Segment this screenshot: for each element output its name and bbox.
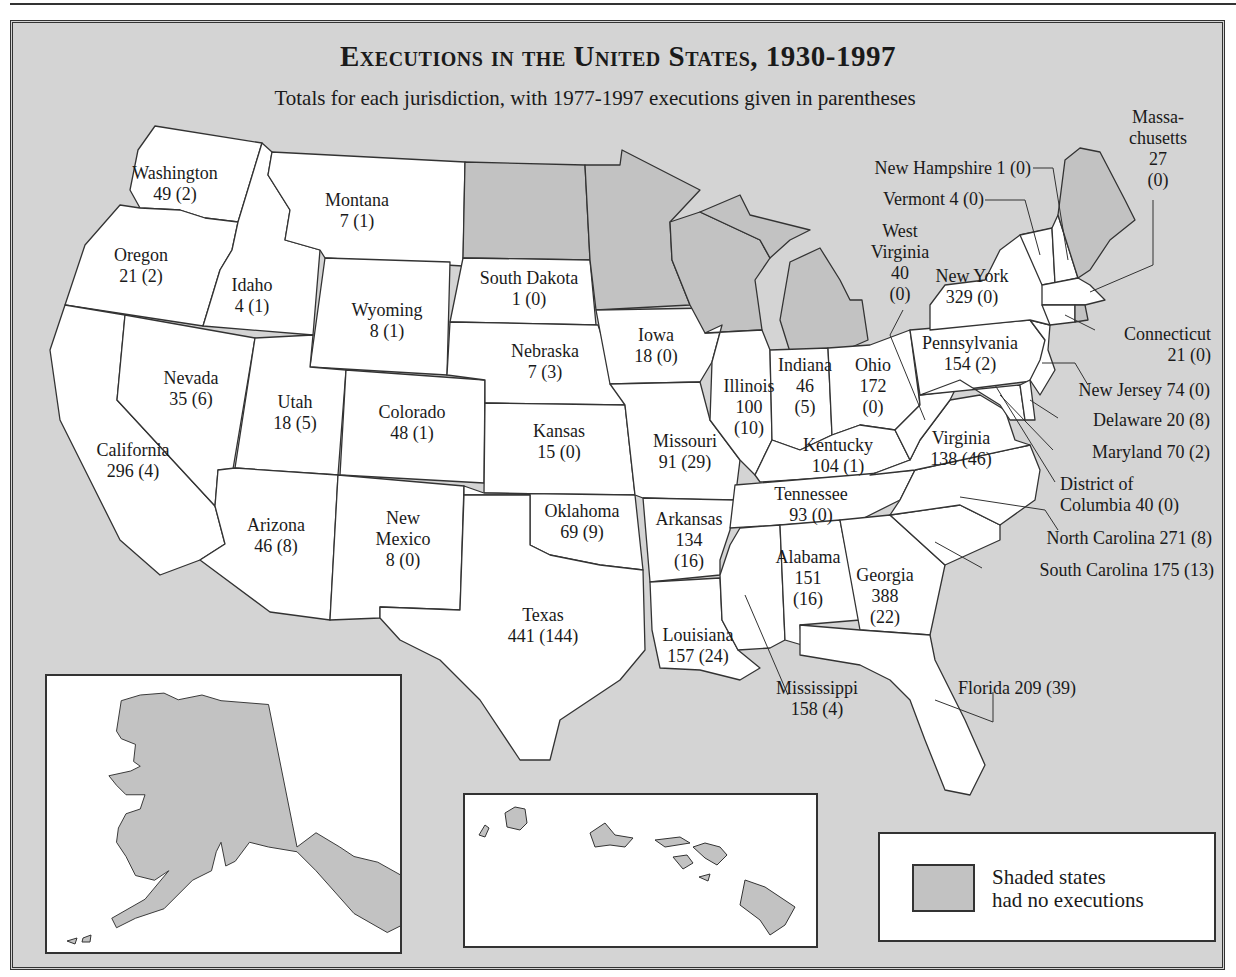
label-indiana: Indiana46(5) <box>778 355 832 418</box>
label-texas: Texas441 (144) <box>508 605 579 647</box>
label-wyoming: Wyoming8 (1) <box>352 300 423 342</box>
map-subtitle: Totals for each jurisdiction, with 1977-… <box>0 86 1190 111</box>
legend-swatch-shaded <box>912 864 975 912</box>
label-alabama: Alabama151(16) <box>776 547 841 610</box>
state-rhode-island <box>1075 305 1088 322</box>
label-kentucky: Kentucky104 (1) <box>803 435 873 477</box>
alaska-shape <box>47 676 400 952</box>
label-montana: Montana7 (1) <box>325 190 389 232</box>
label-new-hampshire: New Hampshire 1 (0) <box>875 158 1031 179</box>
label-ohio: Ohio172(0) <box>855 355 891 418</box>
label-new-mexico: NewMexico8 (0) <box>376 508 431 571</box>
label-district-of-columbia: District ofColumbia 40 (0) <box>1060 474 1179 516</box>
legend-text: Shaded states had no executions <box>992 866 1144 912</box>
label-pennsylvania: Pennsylvania154 (2) <box>922 333 1018 375</box>
label-delaware: Delaware 20 (8) <box>1093 410 1210 431</box>
label-oklahoma: Oklahoma69 (9) <box>545 501 620 543</box>
label-south-carolina: South Carolina 175 (13) <box>1040 560 1214 581</box>
label-west-virginia: WestVirginia40(0) <box>871 221 930 305</box>
label-louisiana: Louisiana157 (24) <box>663 625 734 667</box>
state-north-dakota <box>463 162 590 260</box>
label-virginia: Virginia138 (46) <box>930 428 992 470</box>
label-tennessee: Tennessee93 (0) <box>774 484 848 526</box>
hawaii-inset <box>463 793 818 948</box>
label-colorado: Colorado48 (1) <box>379 402 446 444</box>
label-nebraska: Nebraska7 (3) <box>511 341 579 383</box>
label-arkansas: Arkansas134(16) <box>656 509 723 572</box>
label-california: California296 (4) <box>97 440 170 482</box>
label-oregon: Oregon21 (2) <box>114 245 168 287</box>
label-illinois: Illinois100(10) <box>723 376 774 439</box>
label-washington: Washington49 (2) <box>132 163 218 205</box>
label-north-carolina: North Carolina 271 (8) <box>1047 528 1212 549</box>
label-south-dakota: South Dakota1 (0) <box>480 268 579 310</box>
label-new-jersey: New Jersey 74 (0) <box>1079 380 1210 401</box>
alaska-inset <box>45 674 402 954</box>
label-maryland: Maryland 70 (2) <box>1092 442 1210 463</box>
label-nevada: Nevada35 (6) <box>164 368 219 410</box>
label-massachusetts: Massa-chusetts27(0) <box>1129 107 1187 191</box>
map-title: Executions in the United States, 1930-19… <box>0 40 1236 73</box>
label-iowa: Iowa18 (0) <box>634 325 678 367</box>
label-new-york: New York329 (0) <box>935 266 1008 308</box>
legend: Shaded states had no executions <box>878 832 1216 942</box>
label-missouri: Missouri91 (29) <box>653 431 717 473</box>
label-mississippi: Mississippi158 (4) <box>776 678 858 720</box>
label-kansas: Kansas15 (0) <box>533 421 585 463</box>
label-florida: Florida 209 (39) <box>958 678 1076 699</box>
label-connecticut: Connecticut21 (0) <box>1124 324 1211 366</box>
label-vermont: Vermont 4 (0) <box>883 189 984 210</box>
label-arizona: Arizona46 (8) <box>247 515 305 557</box>
hawaii-shape <box>465 795 816 946</box>
state-michigan-lower <box>780 248 868 352</box>
label-utah: Utah18 (5) <box>273 392 317 434</box>
label-georgia: Georgia388(22) <box>856 565 914 628</box>
label-idaho: Idaho4 (1) <box>232 275 273 317</box>
